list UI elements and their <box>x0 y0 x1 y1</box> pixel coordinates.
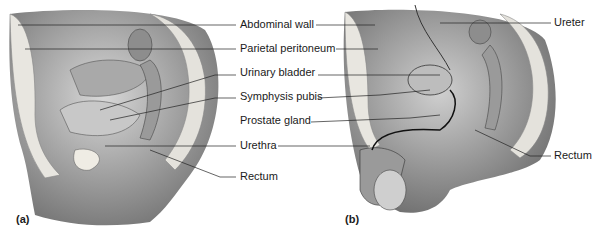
anatomy-figure: Abdominal wall Parietal peritoneum Urina… <box>0 0 601 241</box>
panel-b-illustration <box>344 5 556 213</box>
label-rectum-a: Rectum <box>240 170 278 183</box>
label-urinary-bladder: Urinary bladder <box>240 66 315 79</box>
label-parietal-peritoneum: Parietal peritoneum <box>240 42 335 55</box>
label-ureter: Ureter <box>554 16 585 29</box>
label-prostate-gland: Prostate gland <box>240 114 311 127</box>
label-urethra: Urethra <box>240 139 277 152</box>
panel-label-b: (b) <box>345 213 359 225</box>
label-rectum-b: Rectum <box>554 149 592 162</box>
panel-label-a: (a) <box>16 213 29 225</box>
panel-a-illustration <box>9 10 218 225</box>
label-symphysis-pubis: Symphysis pubis <box>240 90 323 103</box>
label-abdominal-wall: Abdominal wall <box>240 18 314 31</box>
